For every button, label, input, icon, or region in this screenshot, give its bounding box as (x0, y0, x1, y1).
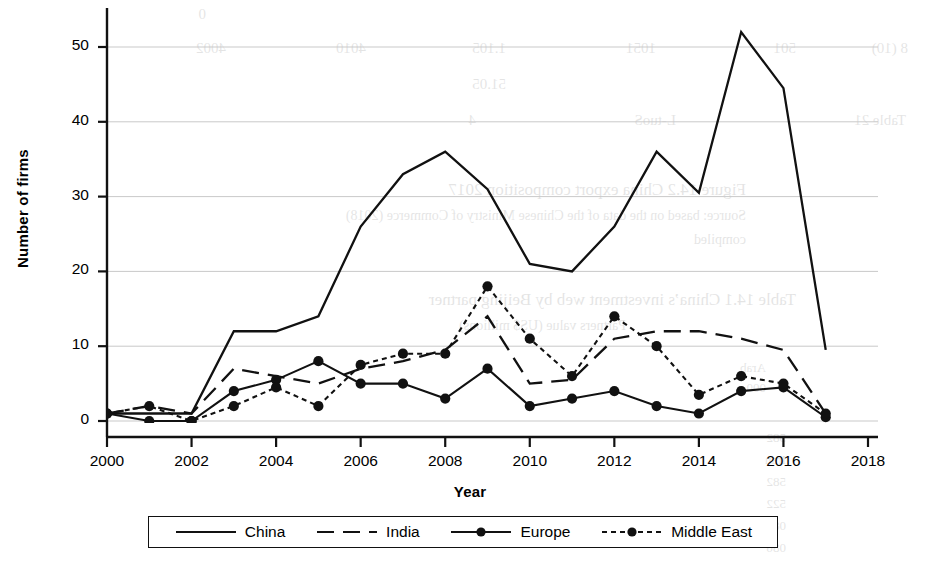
data-point-middle-east (778, 379, 788, 389)
y-tick-label: 10 (45, 335, 89, 353)
data-point-middle-east (609, 311, 619, 321)
y-tick-label: 30 (45, 186, 89, 204)
data-series-group (102, 32, 831, 426)
data-point-europe (229, 386, 239, 396)
data-point-middle-east (144, 401, 154, 411)
data-point-middle-east (313, 401, 323, 411)
data-point-middle-east (271, 382, 281, 392)
data-point-europe (440, 393, 450, 403)
data-point-middle-east (567, 371, 577, 381)
data-point-middle-east (102, 408, 112, 418)
series-line-india (107, 316, 826, 413)
legend-swatch-dotted (600, 525, 664, 539)
y-tick-marks (98, 47, 107, 421)
x-tick-label: 2016 (753, 452, 813, 470)
data-point-middle-east (398, 349, 408, 359)
series-line-china (107, 32, 826, 413)
x-tick-label: 2002 (162, 452, 222, 470)
data-point-middle-east (736, 371, 746, 381)
legend-label: Europe (520, 523, 570, 541)
x-tick-label: 2014 (669, 452, 729, 470)
legend-swatch-solid (449, 525, 513, 539)
data-point-middle-east (694, 390, 704, 400)
data-point-europe (482, 364, 492, 374)
data-point-middle-east (821, 408, 831, 418)
data-point-europe (144, 416, 154, 426)
y-tick-label: 50 (45, 36, 89, 54)
data-point-middle-east (652, 341, 662, 351)
data-point-europe (313, 356, 323, 366)
x-tick-marks (107, 437, 868, 447)
x-tick-label: 2010 (500, 452, 560, 470)
y-tick-label: 20 (45, 260, 89, 278)
data-point-europe (736, 386, 746, 396)
chart-legend: ChinaIndiaEuropeMiddle East (148, 516, 778, 548)
legend-label: Middle East (671, 523, 752, 541)
series-line-middle-east (107, 286, 826, 421)
y-axis-title: Number of firms (14, 109, 31, 309)
x-axis-title: Year (380, 483, 560, 500)
data-point-middle-east (356, 360, 366, 370)
data-point-europe (694, 408, 704, 418)
data-point-europe (567, 393, 577, 403)
legend-swatch-solid (174, 525, 238, 539)
legend-swatch-long-dash (315, 525, 379, 539)
legend-entry-india[interactable]: India (315, 523, 420, 541)
data-point-middle-east (186, 416, 196, 426)
y-tick-label: 40 (45, 111, 89, 129)
legend-entry-china[interactable]: China (174, 523, 286, 541)
data-point-europe (525, 401, 535, 411)
data-point-middle-east (525, 334, 535, 344)
data-point-middle-east (482, 281, 492, 291)
data-point-middle-east (229, 401, 239, 411)
data-point-europe (398, 379, 408, 389)
x-tick-label: 2012 (584, 452, 644, 470)
x-tick-label: 2008 (415, 452, 475, 470)
legend-entry-europe[interactable]: Europe (449, 523, 570, 541)
legend-entry-middle-east[interactable]: Middle East (600, 523, 752, 541)
x-tick-label: 2000 (77, 452, 137, 470)
data-point-middle-east (440, 349, 450, 359)
gridlines (107, 47, 878, 421)
legend-label: India (386, 523, 420, 541)
data-point-europe (652, 401, 662, 411)
legend-label: China (245, 523, 286, 541)
x-tick-label: 2004 (246, 452, 306, 470)
y-tick-label: 0 (45, 410, 89, 428)
x-tick-label: 2006 (331, 452, 391, 470)
line-chart: Number of firms Year 01020304050 2000200… (0, 0, 926, 573)
x-tick-label: 2018 (838, 452, 898, 470)
data-point-europe (356, 379, 366, 389)
data-point-europe (609, 386, 619, 396)
